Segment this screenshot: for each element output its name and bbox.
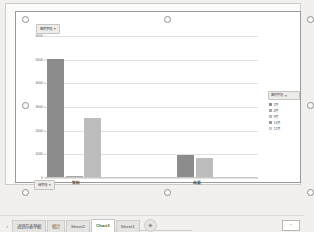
axis-field-button-label: 轴字段 xyxy=(38,181,47,189)
legend-item[interactable]: 11月 xyxy=(268,126,300,132)
legend-swatch-icon xyxy=(269,127,272,130)
x-axis: 饮料米面 xyxy=(45,180,258,190)
filter-icon[interactable]: ▾ xyxy=(49,181,51,189)
chart-legend[interactable]: 图例字段 ▾ 1月4月9月10月11月 xyxy=(268,91,300,132)
y-axis-tick-label: 1000 xyxy=(35,152,43,156)
selection-handle-bottom-left[interactable] xyxy=(22,189,29,196)
bar-1月-饮料[interactable] xyxy=(47,59,64,177)
legend-swatch-icon xyxy=(269,103,272,106)
y-axis-tick-label: 6000 xyxy=(35,34,43,38)
gridline xyxy=(45,60,258,61)
bar-1月-米面[interactable] xyxy=(177,155,194,177)
bar-9月-米面[interactable] xyxy=(196,158,213,177)
pivot-chart-object[interactable]: 图例字段 ▾ 轴字段 ▾ 6000500040003000200010000 饮… xyxy=(15,11,301,183)
y-axis-tick-label: 3000 xyxy=(35,105,43,109)
chart-sheet-canvas[interactable]: 图例字段 ▾ 轴字段 ▾ 6000500040003000200010000 饮… xyxy=(5,3,301,185)
chevron-down-icon[interactable]: ▾ xyxy=(285,92,287,100)
gridline xyxy=(45,131,258,132)
filter-icon[interactable]: ▾ xyxy=(54,25,56,33)
gridline xyxy=(45,83,258,84)
legend-field-button[interactable]: 图例字段 ▾ xyxy=(36,24,60,34)
selection-handle-bottom-center[interactable] xyxy=(164,189,171,196)
gridline xyxy=(45,36,258,37)
x-axis-category-label: 饮料 xyxy=(72,180,80,186)
y-axis-tick-label: 5000 xyxy=(35,58,43,62)
legend-swatch-icon xyxy=(269,115,272,118)
selection-handle-middle-left[interactable] xyxy=(22,102,29,109)
legend-swatch-icon xyxy=(269,109,272,112)
legend-swatch-icon xyxy=(269,121,272,124)
workbook-window: 图例字段 ▾ 轴字段 ▾ 6000500040003000200010000 饮… xyxy=(0,0,304,207)
legend-header-label: 图例字段 xyxy=(271,92,283,99)
y-axis: 6000500040003000200010000 xyxy=(29,36,44,178)
gridline xyxy=(45,154,258,155)
selection-handle-top-left[interactable] xyxy=(22,16,29,23)
axis-field-button[interactable]: 轴字段 ▾ xyxy=(34,180,55,190)
bar-9月-饮料[interactable] xyxy=(84,118,101,177)
y-axis-tick-label: 4000 xyxy=(35,81,43,85)
bar-4月-饮料[interactable] xyxy=(66,176,83,177)
selection-handle-top-center[interactable] xyxy=(164,16,171,23)
legend-item-label: 11月 xyxy=(274,126,281,132)
gridline xyxy=(45,178,258,179)
x-axis-category-label: 米面 xyxy=(193,180,201,186)
plot-area[interactable] xyxy=(45,36,258,178)
y-axis-tick-label: 2000 xyxy=(35,129,43,133)
gridline xyxy=(45,107,258,108)
legend-field-header[interactable]: 图例字段 ▾ xyxy=(268,91,300,100)
legend-field-button-label: 图例字段 xyxy=(40,25,52,33)
